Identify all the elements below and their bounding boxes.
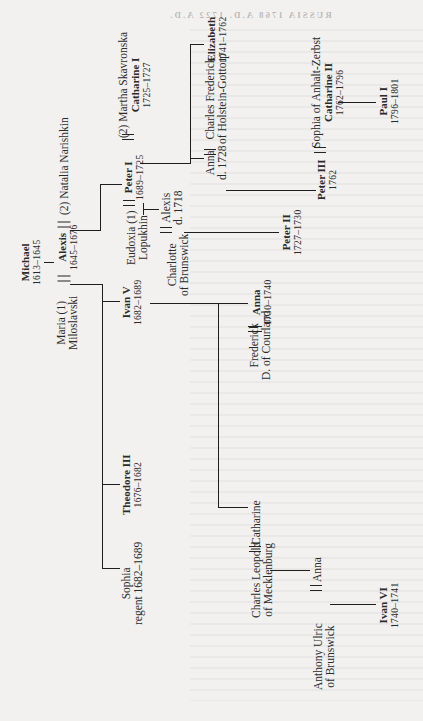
line-to-paul-i xyxy=(338,102,376,103)
marriage-charlotte-alexis xyxy=(160,227,172,233)
node-michael: Michael 1613–1645 xyxy=(19,240,43,285)
line-peter-martha-children xyxy=(140,163,190,164)
line-to-anna-courland xyxy=(218,303,248,304)
node-anna-empress: Anna 1730–1740 xyxy=(250,280,274,325)
line-ivan-v-children xyxy=(150,303,218,304)
node-charlotte-brunswick: Charlotte of Brunswick xyxy=(166,234,190,296)
node-ivan-vi: Ivan VI 1740–1741 xyxy=(377,583,401,628)
marriage-eudoxia-peter xyxy=(123,200,135,206)
line-to-peter-ii xyxy=(184,232,279,233)
line-to-sophia-regent xyxy=(102,568,120,569)
node-peter-i: Peter I 1689–1725 xyxy=(122,155,146,200)
node-theodore-iii: Theodore III 1676–1682 xyxy=(120,454,144,515)
node-peter-ii: Peter II 1727–1730 xyxy=(280,210,304,255)
marriage-alexis-natalia xyxy=(58,222,71,228)
line-to-catharine xyxy=(218,507,248,508)
marriage-maria-alexis xyxy=(58,276,71,282)
node-maria-miloslavski: Maria (1) Miloslavski xyxy=(55,296,79,350)
line-natalia-child-v xyxy=(100,184,101,231)
line-to-theodore-iii xyxy=(102,484,120,485)
node-alexis: Alexis 1645–1676 xyxy=(56,225,80,270)
node-eudoxia-lopukhin: Eudoxia (1) Lopukhin xyxy=(125,210,149,265)
node-sophia-regent: Sophia regent 1682–1689 xyxy=(120,542,144,625)
node-paul-i: Paul I 1796–1801 xyxy=(377,79,401,124)
marriage-frederick-anna xyxy=(248,326,262,332)
line-to-peter-i xyxy=(100,184,122,185)
node-natalia-narishkin: (2) Natalia Narishkin xyxy=(58,117,70,215)
node-anna-mecklenburg: Anna xyxy=(311,557,323,582)
node-anthony-ulric: Anthony Ulric of Brunswick xyxy=(312,623,336,690)
node-alexis-d1718: Alexis d. 1718 xyxy=(160,191,184,226)
node-martha-catharine-i: (2) Martha Skavronska Catharine I 1725–1… xyxy=(117,32,153,138)
line-maria-children xyxy=(70,284,102,285)
bleed-through-header: RUSSIA 1768 A.D. 1722 A.D. xyxy=(100,10,400,20)
line-to-elizabeth xyxy=(190,44,204,45)
line-to-anna xyxy=(190,158,204,159)
line-to-alexis-son xyxy=(143,209,159,210)
line-maria-children-v xyxy=(102,284,103,569)
marriage-anthony-anna xyxy=(310,585,322,591)
line-to-anna-mecklenburg xyxy=(270,570,310,571)
line-children-v xyxy=(190,44,191,164)
line-natalia-child xyxy=(70,230,100,231)
line-ivan-v-children-v xyxy=(218,303,219,508)
line-michael-alexis xyxy=(44,262,54,263)
marriage-anna-charles xyxy=(204,149,216,155)
node-sophia-catharine-ii: Sophia of Anhalt-Zerbst Catharine II 176… xyxy=(310,37,346,148)
node-ivan-v: Ivan V 1682–1689 xyxy=(120,280,144,325)
node-peter-iii: Peter III 1762 xyxy=(315,160,339,200)
line-to-ivan-vi xyxy=(330,604,376,605)
node-catharine: Catharine xyxy=(250,500,262,545)
line-to-ivan-v xyxy=(102,301,120,302)
node-charles-frederick: Charles Frederick of Holstein-Gottorp xyxy=(204,53,228,144)
node-charles-leopold: Charles Leopold of Mecklenburg xyxy=(250,542,274,618)
line-to-peter-iii xyxy=(226,190,316,191)
